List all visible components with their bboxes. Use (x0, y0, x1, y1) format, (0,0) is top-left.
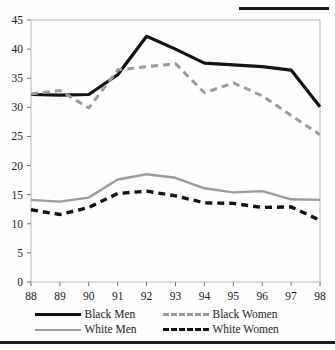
plot-frame (31, 20, 320, 282)
y-tick-label: 30 (12, 101, 24, 113)
legend-swatch-dashed-gray-icon (163, 313, 209, 316)
y-tick-label: 0 (17, 276, 23, 288)
legend-swatch-solid-black-icon (35, 313, 81, 316)
legend-label-black-women: Black Women (213, 308, 278, 321)
x-tick-label: 96 (256, 290, 268, 302)
page-rule-top-right (239, 7, 329, 10)
legend-item-black-women: Black Women (163, 308, 301, 321)
x-tick-label: 92 (141, 290, 153, 302)
x-axis-tick-marks (31, 282, 320, 286)
legend-swatch-solid-gray-icon (35, 329, 81, 331)
y-axis-tick-labels: 051015202530354045 (12, 14, 24, 288)
legend-row-2: White Men White Women (35, 323, 301, 336)
x-tick-label: 91 (112, 290, 124, 302)
y-tick-label: 45 (12, 14, 24, 26)
legend-item-white-women: White Women (163, 323, 301, 336)
y-tick-label: 20 (12, 160, 24, 172)
x-tick-label: 98 (314, 290, 326, 302)
data-series-group (31, 36, 320, 220)
y-tick-label: 40 (12, 43, 24, 55)
x-tick-label: 93 (170, 290, 182, 302)
x-tick-label: 88 (25, 290, 37, 302)
series-line-black-men (31, 36, 320, 106)
y-tick-label: 15 (12, 189, 24, 201)
page-rule-bottom (0, 341, 335, 344)
figure-page: 051015202530354045 888990919293949596979… (0, 0, 335, 350)
chart-canvas: 051015202530354045 888990919293949596979… (0, 12, 335, 312)
line-chart: 051015202530354045 888990919293949596979… (0, 12, 335, 342)
legend-label-black-men: Black Men (85, 308, 136, 321)
legend-item-black-men: Black Men (35, 308, 163, 321)
legend-swatch-dashed-black-icon (163, 328, 209, 331)
x-axis-tick-labels: 8889909192939495969798 (25, 290, 326, 302)
legend-label-white-men: White Men (85, 323, 137, 336)
y-tick-label: 35 (12, 72, 24, 84)
x-tick-label: 95 (228, 290, 240, 302)
series-line-black-women (31, 64, 320, 135)
y-axis-tick-marks (27, 20, 31, 282)
legend-item-white-men: White Men (35, 323, 163, 336)
x-tick-label: 89 (54, 290, 66, 302)
x-tick-label: 90 (83, 290, 95, 302)
legend-row-1: Black Men Black Women (35, 308, 301, 321)
x-tick-label: 94 (199, 290, 211, 302)
y-tick-label: 10 (12, 218, 24, 230)
y-tick-label: 25 (12, 130, 24, 142)
y-tick-label: 5 (17, 247, 23, 259)
legend-label-white-women: White Women (213, 323, 279, 336)
x-tick-label: 97 (285, 290, 297, 302)
